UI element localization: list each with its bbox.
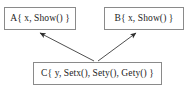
class-diagram: A{ x, Show() } B{ x, Show() } C{ y, Setx… — [0, 0, 191, 94]
inheritance-arrow-c-to-a — [40, 33, 94, 61]
class-box-a: A{ x, Show() } — [4, 7, 76, 30]
class-box-b: B{ x, Show() } — [104, 7, 184, 30]
inheritance-arrow-c-to-b — [98, 33, 136, 61]
class-box-c: C{ y, Setx(), Sety(), Gety() } — [33, 62, 162, 85]
